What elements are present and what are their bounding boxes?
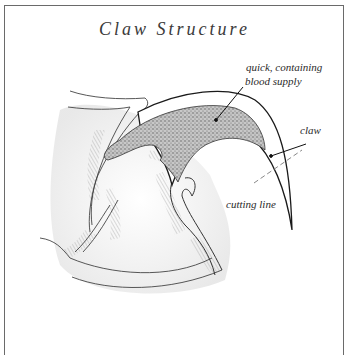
label-quick-line2: blood supply <box>245 75 302 88</box>
label-cutting-line: cutting line <box>226 198 276 211</box>
label-claw: claw <box>300 124 321 137</box>
label-quick-line1: quick, containing <box>246 61 322 74</box>
